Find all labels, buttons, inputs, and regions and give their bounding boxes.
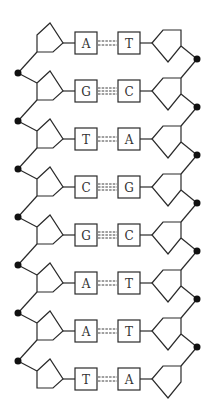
right-base-label: T — [125, 37, 133, 51]
right-sugar-pentagon — [152, 126, 181, 158]
left-sugar-pentagon — [37, 359, 63, 388]
left-sugar-pentagon — [37, 263, 63, 292]
left-phosphate-dot — [15, 118, 22, 125]
right-backbone — [181, 59, 197, 78]
left-sugar-pentagon — [37, 167, 63, 196]
right-base-label: G — [124, 181, 134, 195]
left-phosphate-dot — [15, 70, 22, 77]
right-sugar-pentagon — [152, 318, 181, 350]
right-base-label: C — [124, 229, 133, 243]
left-sugar-pentagon — [37, 215, 63, 244]
left-base-label: C — [81, 181, 90, 195]
left-sugar-pentagon — [37, 23, 63, 52]
dna-diagram: ATGCTACGGCATATTA — [0, 0, 215, 416]
left-phosphate-dot — [15, 166, 22, 173]
left-backbone — [18, 100, 37, 121]
base-pair: CG — [15, 167, 201, 227]
left-sugar-pentagon — [37, 71, 63, 100]
right-backbone — [181, 203, 197, 222]
right-base-label: T — [125, 277, 133, 291]
right-sugar-pentagon — [152, 366, 181, 398]
left-phosphate-dot — [15, 214, 22, 221]
left-base-label: A — [81, 277, 91, 291]
base-pair: GC — [15, 215, 201, 275]
left-phosphate-dot — [15, 358, 22, 365]
right-base-label: A — [124, 373, 134, 387]
right-phosphate-dot — [194, 200, 201, 207]
base-pair: TA — [15, 119, 201, 179]
right-phosphate-dot — [194, 56, 201, 63]
left-sugar-pentagon — [37, 119, 63, 148]
left-backbone — [18, 244, 37, 265]
right-backbone — [181, 299, 197, 318]
right-sugar-pentagon — [152, 222, 181, 254]
right-sugar-pentagon — [152, 78, 181, 110]
base-pair: TA — [37, 359, 181, 398]
left-backbone — [18, 196, 37, 217]
right-phosphate-dot — [194, 104, 201, 111]
left-backbone — [18, 292, 37, 313]
right-phosphate-dot — [194, 152, 201, 159]
base-pair: GC — [15, 71, 201, 131]
left-backbone — [18, 148, 37, 169]
base-pair: AT — [15, 311, 201, 371]
base-pair: AT — [15, 23, 201, 83]
left-backbone — [18, 52, 37, 73]
right-sugar-pentagon — [152, 30, 181, 62]
right-backbone — [181, 251, 197, 270]
left-base-label: T — [82, 133, 90, 147]
right-sugar-pentagon — [152, 270, 181, 302]
left-phosphate-dot — [15, 262, 22, 269]
left-backbone — [18, 340, 37, 361]
right-base-label: C — [124, 85, 133, 99]
left-base-label: A — [81, 325, 91, 339]
left-phosphate-dot — [15, 310, 22, 317]
right-backbone — [181, 107, 197, 126]
right-sugar-pentagon — [152, 174, 181, 206]
left-base-label: G — [81, 85, 91, 99]
right-backbone — [181, 155, 197, 174]
right-phosphate-dot — [194, 344, 201, 351]
left-base-label: A — [81, 37, 91, 51]
right-phosphate-dot — [194, 296, 201, 303]
left-base-label: G — [81, 229, 91, 243]
right-phosphate-dot — [194, 248, 201, 255]
right-backbone — [181, 347, 197, 366]
right-base-label: T — [125, 325, 133, 339]
base-pair: AT — [15, 263, 201, 323]
right-base-label: A — [124, 133, 134, 147]
left-sugar-pentagon — [37, 311, 63, 340]
left-base-label: T — [82, 373, 90, 387]
